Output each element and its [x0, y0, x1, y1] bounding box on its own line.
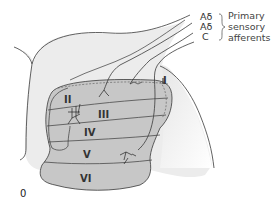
panel-label: 0 — [20, 188, 26, 199]
spinal-dorsal-horn-diagram: Aδ Aδ C Primary sensory afferents I II I… — [0, 0, 278, 203]
lamina-label-IV: IV — [84, 127, 96, 138]
lamina-label-II: II — [64, 94, 71, 105]
group-label-line-2: sensory — [228, 21, 265, 32]
group-label-line-1: Primary — [228, 10, 265, 21]
lamina-label-VI: VI — [80, 173, 91, 184]
diagram-canvas: Aδ Aδ C Primary sensory afferents I II I… — [0, 0, 278, 203]
lamina-label-III: III — [98, 109, 109, 120]
fiber-label-c: C — [202, 31, 209, 42]
gray-matter-region — [40, 80, 172, 191]
lamina-label-V: V — [83, 149, 91, 160]
fiber-group-brace — [219, 14, 225, 40]
lamina-label-I: I — [163, 75, 167, 86]
group-label-line-3: afferents — [228, 32, 270, 43]
